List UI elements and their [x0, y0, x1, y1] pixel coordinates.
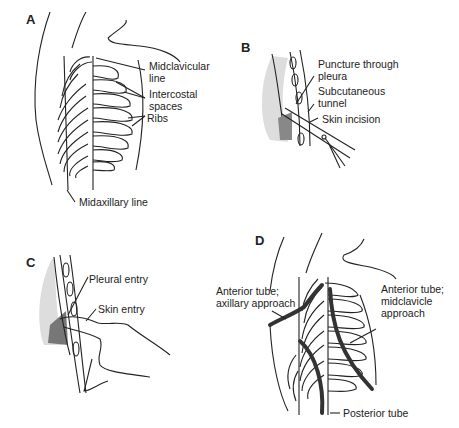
- label-line2: spaces: [149, 100, 197, 112]
- label-line2: pleura: [318, 70, 399, 82]
- posterior-tube-label: Posterior tube: [343, 407, 408, 419]
- puncture-label: Puncture through pleura: [318, 58, 399, 82]
- pleural-entry-label: Pleural entry: [89, 273, 148, 285]
- label-line1: Intercostal: [149, 88, 197, 100]
- label-line2: axillary approach: [216, 297, 295, 309]
- subcutaneous-tunnel-label: Subcutaneous tunnel: [318, 85, 385, 109]
- label-line2: midclavicle: [381, 295, 444, 307]
- label-line1: Anterior tube;: [381, 283, 444, 295]
- ribs-label: Ribs: [147, 112, 168, 124]
- ribs-group: [58, 57, 132, 178]
- label-line2: tunnel: [318, 97, 385, 109]
- posterior-tube: [300, 341, 322, 413]
- panel-a: A: [0, 0, 230, 215]
- skin-entry-label: Skin entry: [98, 303, 145, 315]
- label-line1: Midclavicular: [149, 60, 210, 72]
- skin-incision-label: Skin incision: [322, 113, 380, 125]
- axillary-approach-label: Anterior tube; axillary approach: [216, 285, 295, 309]
- intercostal-spaces-label: Intercostal spaces: [149, 88, 197, 112]
- label-line1: Puncture through: [318, 58, 399, 70]
- midaxillary-line-label: Midaxillary line: [79, 196, 148, 208]
- tube-placement-illustration: [200, 215, 459, 428]
- midclavicle-tube: [330, 289, 372, 389]
- label-line2: line: [149, 72, 210, 84]
- label-line1: Subcutaneous: [318, 85, 385, 97]
- midclavicle-approach-label: Anterior tube; midclavicle approach: [381, 283, 444, 319]
- panel-c: C Pleural entry Skin entry: [0, 215, 200, 428]
- panel-b: B Puncture through pleura Subcutaneous t…: [230, 0, 459, 215]
- label-line1: Anterior tube;: [216, 285, 295, 297]
- midclavicular-line-label: Midclavicular line: [149, 60, 210, 84]
- finger-dissection-illustration: [0, 215, 200, 428]
- panel-d: D Anterior tube;: [200, 215, 459, 428]
- label-line3: approach: [381, 307, 444, 319]
